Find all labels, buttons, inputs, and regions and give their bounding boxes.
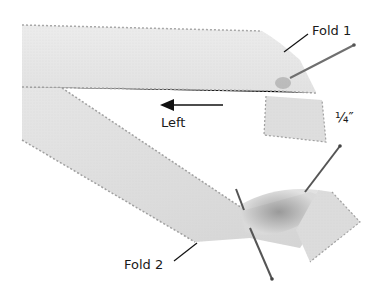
pin-upper-right bbox=[305, 146, 340, 192]
fold1-label: Fold 1 bbox=[312, 24, 351, 37]
fold1-leader-line bbox=[284, 34, 308, 52]
ribbon-illustration bbox=[0, 0, 382, 305]
upper-ribbon bbox=[22, 25, 316, 93]
fold2-leader-line bbox=[174, 243, 197, 261]
fold2-twist bbox=[240, 189, 360, 262]
fold2-label: Fold 2 bbox=[124, 258, 163, 271]
left-arrow-icon bbox=[160, 99, 223, 111]
ribbon-photo: Fold 1 Left ¼″ Fold 2 bbox=[0, 0, 382, 305]
fold1-crease-shadow bbox=[275, 77, 291, 89]
direction-label: Left bbox=[161, 116, 185, 129]
measurement-label: ¼″ bbox=[335, 110, 354, 124]
